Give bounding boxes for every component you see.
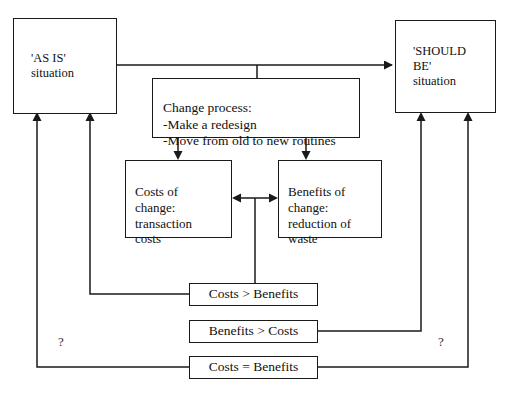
arrowhead-benefits bbox=[302, 151, 311, 160]
node-benefits-greater-label: Benefits > Costs bbox=[209, 323, 298, 339]
node-benefits-of-change-label: Benefits of change: reduction of waste bbox=[288, 184, 351, 247]
node-change-process-label: Change process: -Make a redesign -Move f… bbox=[163, 100, 336, 148]
node-benefits-of-change: Benefits of change: reduction of waste bbox=[278, 160, 382, 238]
connector-costs-equal-to-should-be bbox=[318, 120, 468, 367]
arrowhead-should-be-inner bbox=[417, 112, 426, 121]
arrowhead-should-be-outer bbox=[464, 112, 473, 121]
connector-costs-equal-to-as-is bbox=[37, 120, 189, 367]
arrowhead-costs bbox=[174, 151, 183, 160]
node-costs-greater-label: Costs > Benefits bbox=[209, 286, 298, 302]
node-costs-equal-benefits: Costs = Benefits bbox=[189, 356, 318, 379]
node-as-is-situation: 'AS IS' situation bbox=[13, 18, 117, 114]
node-should-be-situation: 'SHOULD BE' situation bbox=[395, 20, 496, 113]
arrowhead-to-benefits bbox=[269, 194, 278, 203]
diagram-canvas: 'AS IS' situation 'SHOULD BE' situation … bbox=[0, 0, 510, 395]
question-mark-left: ? bbox=[58, 334, 64, 350]
node-costs-equal-label: Costs = Benefits bbox=[209, 359, 298, 375]
node-costs-greater-than-benefits: Costs > Benefits bbox=[189, 283, 318, 306]
node-as-is-label: 'AS IS' situation bbox=[14, 51, 74, 82]
question-mark-right: ? bbox=[438, 334, 444, 350]
node-should-be-label: 'SHOULD BE' situation bbox=[396, 44, 466, 90]
node-benefits-greater-than-costs: Benefits > Costs bbox=[189, 320, 318, 343]
node-costs-of-change: Costs of change: transaction costs bbox=[125, 160, 232, 238]
arrowhead-to-costs bbox=[232, 194, 241, 203]
node-costs-of-change-label: Costs of change: transaction costs bbox=[135, 184, 192, 247]
node-change-process: Change process: -Make a redesign -Move f… bbox=[152, 78, 360, 138]
